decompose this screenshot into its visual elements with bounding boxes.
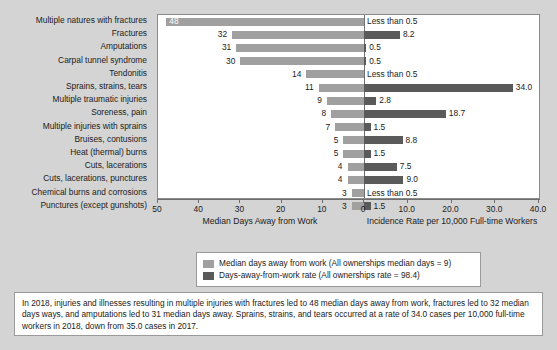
axis-tick (239, 199, 240, 203)
bar-median-days (327, 97, 364, 105)
left-axis-tick-label: 20 (276, 204, 285, 214)
bar-value-incidence-rate: Less than 0.5 (367, 15, 417, 28)
left-axis-tick-label: 50 (152, 204, 161, 214)
bar-row: 49.0 (158, 173, 539, 186)
axis-tick (281, 199, 282, 203)
left-axis-tick-label: 30 (235, 204, 244, 214)
legend-swatch-light (203, 260, 214, 268)
bar-value-median-days: 5 (334, 147, 339, 160)
bar-value-median-days: 48 (169, 15, 178, 28)
bar-row: 48Less than 0.5 (158, 15, 539, 28)
bar-incidence-rate (364, 97, 376, 105)
bar-value-incidence-rate: 0.5 (369, 41, 381, 54)
category-label: Bruises, contusions (0, 135, 152, 144)
category-label: Carpal tunnel syndrome (0, 56, 152, 65)
bar-row: 3Less than 0.5 (158, 187, 539, 200)
bar-row: 14Less than 0.5 (158, 68, 539, 81)
category-label: Cuts, lacerations, punctures (0, 174, 152, 183)
bar-value-median-days: 3 (342, 200, 347, 213)
bar-row: 818.7 (158, 107, 539, 120)
right-axis-tick-label: 30.0 (486, 204, 502, 214)
bar-incidence-rate (364, 176, 403, 184)
bar-value-median-days: 14 (292, 68, 301, 81)
category-label: Sprains, strains, tears (0, 82, 152, 91)
right-axis-tick-label: 40.0 (530, 204, 546, 214)
bar-value-median-days: 8 (321, 107, 326, 120)
category-label: Multiple injuries with sprains (0, 122, 152, 131)
bar-incidence-rate (364, 163, 397, 171)
category-label: Fractures (0, 29, 152, 38)
bar-row: 31.5 (158, 200, 539, 213)
bar-median-days (232, 31, 364, 39)
bar-row: 328.2 (158, 28, 539, 41)
category-label: Multiple natures with fractures (0, 16, 152, 25)
legend-label: Days-away-from-work rate (All ownerships… (219, 271, 420, 280)
bar-incidence-rate (364, 31, 400, 39)
category-label: Soreness, pain (0, 108, 152, 117)
left-axis-title: Median Days Away from Work (203, 216, 318, 227)
axis-tick (198, 199, 199, 203)
left-axis-tick-label: 0 (361, 204, 366, 214)
x-axis-line (157, 199, 540, 200)
bar-median-days (236, 44, 364, 52)
bar-value-incidence-rate: Less than 0.5 (367, 68, 417, 81)
category-label: Chemical burns and corrosions (0, 188, 152, 197)
bar-value-incidence-rate: 0.5 (369, 55, 381, 68)
bar-median-days (166, 18, 364, 26)
bar-median-days (343, 136, 364, 144)
legend-label: Median days away from work (All ownershi… (219, 259, 451, 268)
bar-incidence-rate (364, 123, 371, 131)
axis-tick (494, 199, 495, 203)
bar-value-incidence-rate: 34.0 (516, 81, 532, 94)
bar-median-days (319, 84, 364, 92)
plot-area: 48Less than 0.5328.2310.5300.514Less tha… (157, 14, 540, 199)
bar-value-median-days: 4 (338, 173, 343, 186)
bar-value-incidence-rate: 2.8 (379, 94, 391, 107)
right-axis-tick-label: 10.0 (399, 204, 415, 214)
bar-value-incidence-rate: 8.8 (406, 134, 418, 147)
bar-incidence-rate (364, 44, 366, 52)
right-axis-title: Incidence Rate per 10,000 Full-time Work… (367, 216, 537, 227)
axis-tick (538, 199, 539, 203)
legend: Median days away from work (All ownershi… (196, 252, 481, 287)
axis-tick (322, 199, 323, 203)
category-label: Multiple traumatic injuries (0, 95, 152, 104)
bar-incidence-rate (364, 57, 366, 65)
axis-tick (157, 199, 158, 203)
bar-value-median-days: 32 (218, 28, 227, 41)
right-axis-tick-label: 20.0 (442, 204, 458, 214)
bar-median-days (348, 176, 364, 184)
category-label: Tendonitis (0, 69, 152, 78)
bar-value-median-days: 31 (222, 41, 231, 54)
bar-value-incidence-rate: Less than 0.5 (367, 187, 417, 200)
bar-value-median-days: 3 (342, 187, 347, 200)
axis-tick (407, 199, 408, 203)
left-axis-tick-label: 40 (194, 204, 203, 214)
category-label: Punctures (except gunshots) (0, 201, 152, 210)
bar-median-days (240, 57, 364, 65)
bar-value-incidence-rate: 8.2 (403, 28, 415, 41)
bar-row: 300.5 (158, 55, 539, 68)
axis-tick (363, 199, 364, 203)
bar-value-incidence-rate: 9.0 (406, 173, 418, 186)
bar-row: 92.8 (158, 94, 539, 107)
bar-value-incidence-rate: 1.5 (374, 121, 386, 134)
bar-row: 71.5 (158, 121, 539, 134)
left-axis-tick-label: 10 (317, 204, 326, 214)
legend-item: Days-away-from-work rate (All ownerships… (203, 270, 474, 281)
bar-median-days (352, 189, 364, 197)
bar-row: 47.5 (158, 160, 539, 173)
category-label: Amputations (0, 42, 152, 51)
bar-value-median-days: 11 (305, 81, 314, 94)
category-label: Cuts, lacerations (0, 161, 152, 170)
axis-tick (451, 199, 452, 203)
bar-value-incidence-rate: 7.5 (400, 160, 412, 173)
bar-median-days (348, 163, 364, 171)
bar-incidence-rate (364, 136, 403, 144)
bar-incidence-rate (364, 110, 446, 118)
legend-item: Median days away from work (All ownershi… (203, 258, 474, 269)
bar-row: 58.8 (158, 134, 539, 147)
chart-page: Multiple natures with fracturesFractures… (0, 0, 557, 350)
legend-swatch-dark (203, 272, 214, 280)
bar-value-incidence-rate: 1.5 (374, 200, 386, 213)
